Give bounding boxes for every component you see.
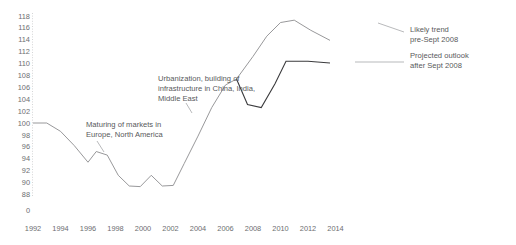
y-tick-102: 102 [18, 107, 30, 116]
annotation-likely-trend-line2: pre-Sept 2008 [410, 35, 458, 44]
y-tick-zero: 0 [26, 206, 30, 215]
leader-line-likely-trend [378, 23, 404, 32]
x-tick-2012: 2012 [300, 224, 316, 233]
x-tick-2004: 2004 [190, 224, 206, 233]
y-tick-94: 94 [22, 154, 30, 163]
line-chart: 118 116 114 112 110 108 106 104 102 100 … [0, 0, 516, 245]
annotation-urbanization-line1: Urbanization, building of [158, 74, 240, 83]
y-tick-116: 116 [18, 23, 30, 32]
annotation-urbanization: Urbanization, building of infrastructure… [158, 74, 255, 103]
x-tick-2014: 2014 [327, 224, 343, 233]
y-tick-114: 114 [18, 35, 30, 44]
y-tick-104: 104 [18, 95, 30, 104]
annotation-maturing-markets: Maturing of markets in Europe, North Ame… [86, 120, 164, 139]
y-axis-tick-labels: 118 116 114 112 110 108 106 104 102 100 … [18, 12, 30, 216]
y-tick-96: 96 [22, 142, 30, 151]
x-tick-1994: 1994 [52, 224, 68, 233]
leader-line-urbanization [186, 103, 192, 113]
annotation-likely-trend: Likely trend pre-Sept 2008 [410, 25, 458, 44]
y-tick-118: 118 [18, 12, 30, 21]
series-likely-trend-line [237, 20, 331, 79]
y-tick-88: 88 [22, 190, 30, 199]
annotation-projected-outlook-line1: Projected outlook [410, 51, 469, 60]
x-tick-2006: 2006 [217, 224, 233, 233]
leader-line-maturing [97, 141, 104, 152]
annotation-likely-trend-line1: Likely trend [410, 25, 449, 34]
x-axis-tick-labels: 1992 1994 1996 1998 2000 2002 2004 2006 … [25, 224, 344, 233]
y-tick-98: 98 [22, 131, 30, 140]
y-tick-108: 108 [18, 71, 30, 80]
annotation-maturing-line1: Maturing of markets in [86, 120, 161, 129]
annotation-projected-outlook: Projected outlook after Sept 2008 [410, 51, 469, 70]
x-tick-1996: 1996 [80, 224, 96, 233]
annotation-projected-outlook-line2: after Sept 2008 [410, 61, 462, 70]
x-tick-2008: 2008 [245, 224, 261, 233]
chart-container: 118 116 114 112 110 108 106 104 102 100 … [0, 0, 516, 245]
x-tick-1998: 1998 [107, 224, 123, 233]
x-tick-1992: 1992 [25, 224, 41, 233]
y-tick-92: 92 [22, 166, 30, 175]
y-tick-112: 112 [18, 47, 30, 56]
annotation-urbanization-line3: Middle East [158, 94, 199, 103]
annotation-maturing-line2: Europe, North America [86, 130, 164, 139]
y-tick-100: 100 [18, 119, 30, 128]
x-tick-2002: 2002 [162, 224, 178, 233]
y-tick-110: 110 [18, 59, 30, 68]
x-tick-2010: 2010 [272, 224, 288, 233]
x-tick-2000: 2000 [135, 224, 151, 233]
y-tick-106: 106 [18, 83, 30, 92]
y-tick-90: 90 [22, 178, 30, 187]
annotation-urbanization-line2: infrastructure in China, India, [158, 84, 255, 93]
